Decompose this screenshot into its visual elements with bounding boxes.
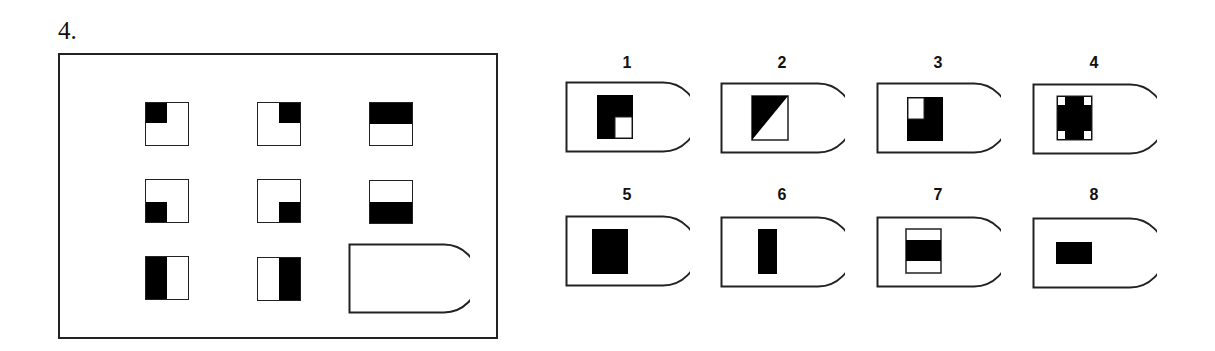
matrix-cell-r2c3: [369, 180, 413, 224]
missing-answer-slot: [348, 243, 470, 314]
option-7-label: 7: [928, 186, 948, 204]
black-fill: [370, 202, 412, 223]
option-4-label: 4: [1084, 54, 1104, 72]
option-3-label: 3: [928, 54, 948, 72]
matrix-cell-r1c3: [369, 102, 413, 146]
matrix-cell-r3c1: [145, 256, 189, 300]
black-fill: [146, 202, 167, 222]
option-6-label: 6: [772, 186, 792, 204]
option-5[interactable]: [565, 215, 690, 287]
black-fill: [279, 202, 300, 222]
black-fill: [370, 103, 412, 124]
option-1-label: 1: [617, 54, 637, 72]
option-3[interactable]: [876, 82, 1001, 154]
black-fill: [279, 258, 300, 300]
matrix-cell-r3c2: [257, 257, 301, 301]
black-fill: [146, 103, 167, 123]
option-8[interactable]: [1032, 217, 1157, 289]
matrix-cell-r2c1: [145, 179, 189, 223]
black-fill: [146, 257, 167, 299]
option-5-label: 5: [617, 186, 637, 204]
option-2-label: 2: [772, 54, 792, 72]
option-2[interactable]: [720, 82, 845, 154]
option-1[interactable]: [565, 81, 690, 153]
matrix-cell-r1c2: [257, 102, 301, 146]
option-7[interactable]: [876, 216, 1001, 288]
question-number: 4.: [58, 16, 77, 46]
matrix-cell-r1c1: [145, 102, 189, 146]
black-fill: [279, 103, 300, 123]
option-4[interactable]: [1032, 83, 1157, 155]
matrix-cell-r2c2: [257, 179, 301, 223]
option-6[interactable]: [720, 216, 845, 288]
option-8-label: 8: [1084, 186, 1104, 204]
